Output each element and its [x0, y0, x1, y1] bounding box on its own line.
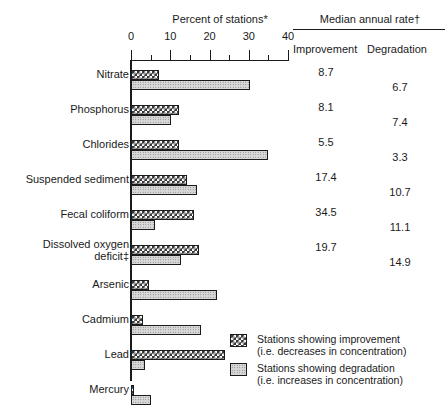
bar-degradation [131, 325, 201, 335]
bar-row: Phosphorus8.17.4 [0, 99, 448, 134]
value-degradation-rate: 14.9 [367, 256, 433, 268]
legend-item-improvement: Stations showing improvement (i.e. decre… [230, 333, 406, 357]
legend-swatch-improvement-icon [230, 334, 247, 347]
category-label: Mercury [4, 384, 129, 395]
category-label: Cadmium [4, 314, 129, 325]
value-improvement-rate: 19.7 [293, 241, 359, 253]
bar-degradation [131, 290, 217, 300]
legend-swatch-degradation-icon [230, 363, 247, 376]
bar-degradation [131, 255, 181, 265]
column-header-improvement: Improvement [293, 43, 357, 55]
bar-improvement [131, 315, 143, 325]
value-improvement-rate: 34.5 [293, 206, 359, 218]
axis-tick-label-10: 10 [164, 30, 176, 42]
axis-tick-minor-5 [151, 55, 152, 60]
bar-degradation [131, 115, 171, 125]
value-degradation-rate: 3.3 [367, 151, 433, 163]
axis-tick-label-0: 0 [128, 30, 134, 42]
category-label: Chlorides [4, 139, 129, 150]
bar-degradation [131, 360, 145, 370]
bar-improvement [131, 140, 179, 150]
axis-tick-minor-25 [229, 55, 230, 60]
bar-improvement [131, 105, 179, 115]
bar-improvement [131, 245, 199, 255]
axis-tick-major-0 [131, 50, 132, 60]
percent-of-stations-title: Percent of stations* [135, 13, 305, 25]
bar-improvement [131, 385, 134, 395]
bar-degradation [131, 185, 197, 195]
bar-row: Chlorides5.53.3 [0, 134, 448, 169]
legend-improvement-line1: Stations showing improvement [257, 333, 406, 345]
legend-improvement-line2: (i.e. decreases in concentration) [257, 345, 406, 357]
value-improvement-rate: 17.4 [293, 171, 359, 183]
value-degradation-rate: 7.4 [367, 116, 433, 128]
category-label: Arsenic [4, 279, 129, 290]
water-quality-trends-chart: Percent of stations* Median annual rate†… [0, 0, 448, 412]
category-label: Suspended sediment [4, 174, 129, 185]
bar-row: Arsenic [0, 274, 448, 309]
bar-row: Nitrate8.76.7 [0, 64, 448, 99]
value-improvement-rate: 5.5 [293, 136, 359, 148]
value-degradation-rate: 11.1 [367, 221, 433, 233]
value-improvement-rate: 8.7 [293, 66, 359, 78]
axis-tick-label-30: 30 [243, 30, 255, 42]
axis-tick-major-30 [249, 50, 250, 60]
axis-tick-minor-35 [268, 55, 269, 60]
bar-row: Dissolved oxygen deficit‡19.714.9 [0, 239, 448, 274]
legend-item-degradation: Stations showing degradation (i.e. incre… [230, 362, 406, 386]
bar-degradation [131, 80, 250, 90]
value-degradation-rate: 10.7 [367, 186, 433, 198]
axis-tick-major-10 [170, 50, 171, 60]
bar-degradation [131, 150, 268, 160]
value-degradation-rate: 6.7 [367, 81, 433, 93]
axis-tick-minor-15 [190, 55, 191, 60]
bar-improvement [131, 350, 225, 360]
category-label: Nitrate [4, 69, 129, 80]
axis-tick-major-20 [210, 50, 211, 60]
category-label: Phosphorus [4, 104, 129, 115]
value-improvement-rate: 8.1 [293, 101, 359, 113]
axis-end-cap [288, 53, 289, 61]
category-label: Fecal coliform [4, 209, 129, 220]
category-label: Lead [4, 349, 129, 360]
category-label: Dissolved oxygen deficit‡ [4, 238, 129, 262]
bar-degradation [131, 395, 151, 405]
median-annual-rate-title: Median annual rate† [296, 13, 444, 25]
bar-improvement [131, 70, 159, 80]
bar-improvement [131, 280, 149, 290]
axis-tick-label-20: 20 [203, 30, 215, 42]
bar-improvement [131, 210, 194, 220]
axis-tick-label-40: 40 [282, 30, 294, 42]
median-title-underline [293, 29, 445, 30]
bar-row: Suspended sediment17.410.7 [0, 169, 448, 204]
column-header-degradation: Degradation [367, 43, 427, 55]
legend-degradation-line1: Stations showing degradation [257, 362, 406, 374]
bar-degradation [131, 220, 155, 230]
legend-degradation-line2: (i.e. increases in concentration) [257, 374, 406, 386]
chart-legend: Stations showing improvement (i.e. decre… [230, 333, 406, 391]
axis-tick-major-40 [288, 50, 289, 60]
axis-line [131, 60, 288, 61]
bar-improvement [131, 175, 187, 185]
bar-row: Fecal coliform34.511.1 [0, 204, 448, 239]
